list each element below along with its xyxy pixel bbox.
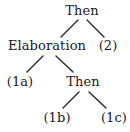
node-leaf-2: (2) [99, 39, 118, 53]
edge-then-to-1c [89, 92, 106, 108]
discourse-tree-figure: Then Elaboration (2) (1a) Then (1b) (1c) [0, 0, 130, 132]
edge-root-to-elaboration [61, 20, 78, 37]
edge-then-to-1b [63, 92, 79, 108]
node-root-then: Then [65, 4, 99, 18]
edge-elaboration-to-1a [27, 56, 43, 72]
node-elaboration: Elaboration [8, 39, 86, 53]
edge-root-to-2 [87, 20, 104, 37]
node-inner-then: Then [66, 75, 100, 89]
edge-elaboration-to-then [56, 56, 73, 72]
node-leaf-1b: (1b) [43, 111, 70, 125]
node-leaf-1a: (1a) [7, 75, 34, 89]
node-leaf-1c: (1c) [101, 111, 127, 125]
